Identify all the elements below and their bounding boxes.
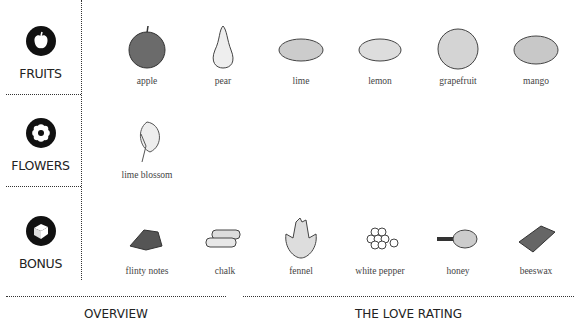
item-label: honey	[418, 266, 498, 276]
item-fennel[interactable]: fennel	[261, 212, 341, 276]
mango-illustration	[511, 22, 561, 72]
apple-illustration	[122, 22, 172, 72]
overview-divider	[6, 296, 226, 297]
lemon-illustration	[355, 22, 405, 72]
item-label: lemon	[340, 76, 420, 86]
item-apple[interactable]: apple	[107, 22, 187, 86]
item-label: beeswax	[496, 266, 574, 276]
item-label: pear	[183, 76, 263, 86]
category-fruits[interactable]: FRUITS	[0, 26, 81, 81]
item-label: fennel	[261, 266, 341, 276]
item-label: flinty notes	[107, 266, 187, 276]
item-label: mango	[496, 76, 574, 86]
flower-icon	[26, 118, 56, 148]
category-label: FRUITS	[0, 66, 81, 81]
item-honey[interactable]: honey	[418, 212, 498, 276]
item-grapefruit[interactable]: grapefruit	[418, 22, 498, 86]
item-label: apple	[107, 76, 187, 86]
box-icon	[26, 216, 56, 246]
item-white-pepper[interactable]: white pepper	[340, 212, 420, 276]
category-bonus[interactable]: BONUS	[0, 216, 81, 271]
item-flinty-notes[interactable]: flinty notes	[107, 212, 187, 276]
tab-love-rating[interactable]: THE LOVE RATING	[243, 307, 574, 321]
pear-illustration	[198, 22, 248, 72]
item-label: chalk	[185, 266, 265, 276]
row-divider-flowers	[6, 186, 81, 187]
lime-blossom-illustration	[122, 116, 172, 166]
row-divider-fruits	[6, 94, 81, 95]
item-lime[interactable]: lime	[261, 22, 341, 86]
item-lime-blossom[interactable]: lime blossom	[107, 116, 187, 180]
item-lemon[interactable]: lemon	[340, 22, 420, 86]
apple-icon	[26, 26, 56, 56]
white-pepper-illustration	[355, 212, 405, 262]
flint-illustration	[122, 212, 172, 262]
category-label: BONUS	[0, 256, 81, 271]
vertical-divider	[81, 0, 82, 280]
tab-overview[interactable]: OVERVIEW	[6, 307, 226, 321]
item-label: lime	[261, 76, 341, 86]
beeswax-illustration	[511, 212, 561, 262]
category-label: FLOWERS	[0, 158, 81, 173]
item-chalk[interactable]: chalk	[185, 212, 265, 276]
love-rating-divider	[243, 296, 574, 297]
fennel-illustration	[276, 212, 326, 262]
item-beeswax[interactable]: beeswax	[496, 212, 574, 276]
item-pear[interactable]: pear	[183, 22, 263, 86]
category-flowers[interactable]: FLOWERS	[0, 118, 81, 173]
lime-illustration	[276, 22, 326, 72]
item-label: lime blossom	[107, 170, 187, 180]
item-label: grapefruit	[418, 76, 498, 86]
item-mango[interactable]: mango	[496, 22, 574, 86]
honey-dipper-illustration	[433, 212, 483, 262]
chalk-illustration	[200, 212, 250, 262]
grapefruit-illustration	[433, 22, 483, 72]
item-label: white pepper	[340, 266, 420, 276]
